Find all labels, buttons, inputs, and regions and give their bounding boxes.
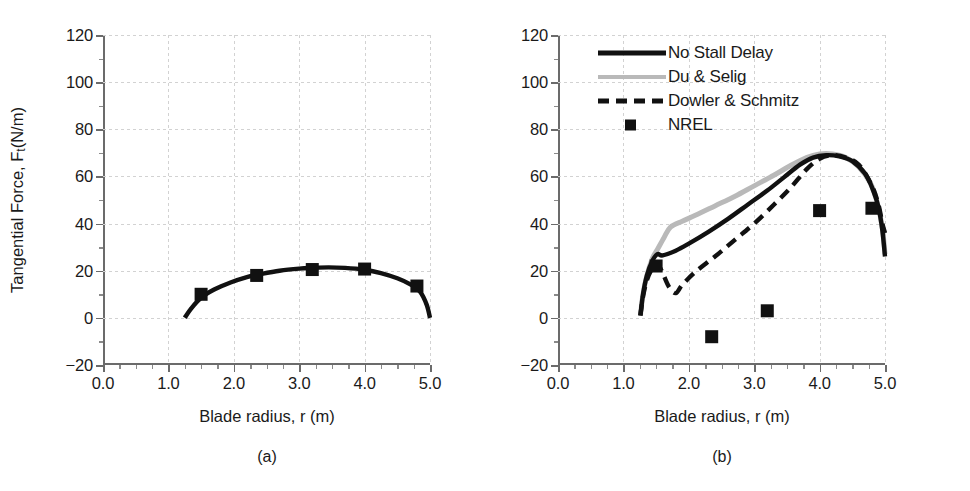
y-tick-major bbox=[551, 365, 558, 367]
data-layer-a bbox=[103, 35, 430, 365]
x-tick-major bbox=[689, 365, 691, 372]
data-point-marker bbox=[358, 263, 371, 276]
legend-solid-glyph bbox=[598, 75, 666, 79]
y-tick-major bbox=[551, 35, 558, 37]
plot-area-a: −200204060801001200.01.02.03.04.05.0 bbox=[103, 35, 430, 365]
data-point-marker bbox=[865, 202, 878, 215]
legend-label: NREL bbox=[668, 115, 713, 135]
y-tick-label: 80 bbox=[75, 120, 93, 139]
x-tick-major bbox=[103, 365, 105, 372]
y-tick-major bbox=[551, 224, 558, 226]
x-tick-minor bbox=[738, 365, 739, 369]
x-tick-label: 1.0 bbox=[612, 374, 634, 393]
y-tick-major bbox=[551, 318, 558, 320]
x-tick-major bbox=[430, 365, 432, 372]
x-tick-minor bbox=[267, 365, 268, 369]
x-tick-minor bbox=[656, 365, 657, 369]
legend-swatch bbox=[596, 68, 668, 86]
y-tick-major bbox=[551, 82, 558, 84]
legend-swatch bbox=[596, 44, 668, 62]
x-tick-label: 2.0 bbox=[678, 374, 700, 393]
y-tick-major bbox=[551, 271, 558, 273]
legend-item-nrel: NREL bbox=[596, 113, 858, 137]
x-tick-major bbox=[623, 365, 625, 372]
y-tick-major bbox=[96, 176, 103, 178]
x-axis-title-b: Blade radius, r (m) bbox=[654, 407, 790, 426]
y-tick-label: 20 bbox=[530, 261, 548, 280]
legend-item-du-selig: Du & Selig bbox=[596, 65, 858, 89]
x-tick-minor bbox=[607, 365, 608, 369]
x-tick-minor bbox=[771, 365, 772, 369]
data-point-marker bbox=[813, 204, 826, 217]
y-tick-major bbox=[96, 271, 103, 273]
x-tick-major bbox=[168, 365, 170, 372]
legend-label: No Stall Delay bbox=[668, 43, 773, 63]
data-point-marker bbox=[650, 260, 663, 273]
x-tick-major bbox=[234, 365, 236, 372]
x-tick-minor bbox=[250, 365, 251, 369]
data-point-marker bbox=[195, 288, 208, 301]
legend-dashed-glyph bbox=[598, 99, 666, 104]
data-point-marker bbox=[705, 330, 718, 343]
legend-b: No Stall DelayDu & SeligDowler & Schmitz… bbox=[596, 41, 858, 137]
x-tick-minor bbox=[722, 365, 723, 369]
x-tick-label: 5.0 bbox=[419, 374, 441, 393]
legend-swatch bbox=[596, 92, 668, 110]
y-tick-label: 100 bbox=[66, 73, 93, 92]
x-tick-minor bbox=[803, 365, 804, 369]
figure-container: Tangential Force, Ft(N/m) −2002040608010… bbox=[0, 0, 970, 491]
y-tick-label: 0 bbox=[84, 308, 93, 327]
x-tick-minor bbox=[316, 365, 317, 369]
x-tick-minor bbox=[869, 365, 870, 369]
x-tick-major bbox=[299, 365, 301, 372]
y-tick-label: 120 bbox=[521, 26, 548, 45]
x-tick-label: 1.0 bbox=[157, 374, 179, 393]
x-tick-label: 0.0 bbox=[547, 374, 569, 393]
y-tick-label: 80 bbox=[530, 120, 548, 139]
y-tick-major bbox=[96, 224, 103, 226]
legend-label: Dowler & Schmitz bbox=[668, 91, 799, 111]
x-tick-major bbox=[885, 365, 887, 372]
x-tick-label: 3.0 bbox=[288, 374, 310, 393]
x-tick-minor bbox=[381, 365, 382, 369]
y-tick-label: 100 bbox=[521, 73, 548, 92]
y-tick-label: 40 bbox=[75, 214, 93, 233]
data-point-marker bbox=[410, 280, 423, 293]
y-tick-major bbox=[96, 35, 103, 37]
x-tick-minor bbox=[672, 365, 673, 369]
x-tick-minor bbox=[414, 365, 415, 369]
plot-area-b: −200204060801001200.01.02.03.04.05.0 No … bbox=[558, 35, 885, 365]
x-tick-minor bbox=[136, 365, 137, 369]
y-tick-label: −20 bbox=[66, 356, 93, 375]
x-tick-major bbox=[365, 365, 367, 372]
legend-marker-glyph bbox=[625, 120, 636, 131]
y-axis-title-a: Tangential Force, Ft(N/m) bbox=[8, 107, 29, 293]
x-tick-minor bbox=[201, 365, 202, 369]
x-tick-label: 5.0 bbox=[874, 374, 896, 393]
y-tick-label: 120 bbox=[66, 26, 93, 45]
x-tick-label: 2.0 bbox=[223, 374, 245, 393]
legend-label: Du & Selig bbox=[668, 67, 746, 87]
x-tick-minor bbox=[640, 365, 641, 369]
y-tick-major bbox=[96, 318, 103, 320]
x-tick-major bbox=[820, 365, 822, 372]
legend-solid-glyph bbox=[598, 51, 666, 56]
x-tick-minor bbox=[348, 365, 349, 369]
x-tick-label: 3.0 bbox=[743, 374, 765, 393]
y-tick-label: 60 bbox=[75, 167, 93, 186]
chart-panel-a: Tangential Force, Ft(N/m) −2002040608010… bbox=[0, 0, 485, 491]
x-tick-minor bbox=[787, 365, 788, 369]
x-tick-minor bbox=[283, 365, 284, 369]
x-tick-minor bbox=[332, 365, 333, 369]
y-tick-major bbox=[551, 176, 558, 178]
x-tick-major bbox=[754, 365, 756, 372]
x-tick-minor bbox=[852, 365, 853, 369]
x-tick-major bbox=[558, 365, 560, 372]
x-tick-label: 4.0 bbox=[808, 374, 830, 393]
x-tick-minor bbox=[185, 365, 186, 369]
y-tick-major bbox=[96, 365, 103, 367]
y-tick-major bbox=[96, 82, 103, 84]
panel-caption-a: (a) bbox=[257, 448, 277, 466]
x-tick-label: 0.0 bbox=[92, 374, 114, 393]
data-point-marker bbox=[761, 304, 774, 317]
